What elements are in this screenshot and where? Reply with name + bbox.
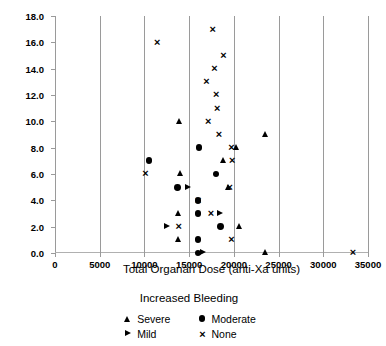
y-axis-tick-label: 12.0 <box>14 90 44 101</box>
mild-marker-icon <box>185 184 191 190</box>
x-axis-tick-mark <box>55 253 56 257</box>
moderate-marker-icon <box>146 157 153 164</box>
mild-marker-icon <box>164 223 170 229</box>
y-axis-tick-label: 14.0 <box>14 63 44 74</box>
y-axis-tick-label: 10.0 <box>14 116 44 127</box>
none-marker-icon <box>212 88 220 100</box>
x-axis-tick-mark <box>189 253 190 257</box>
legend-title: Increased Bleeding <box>0 292 378 304</box>
y-axis-line <box>55 16 56 253</box>
legend-item-label: Moderate <box>211 313 255 325</box>
y-axis-label-text: Patient Number <box>0 91 1 171</box>
gridline-vertical <box>323 16 324 253</box>
legend-item-label: None <box>211 328 236 340</box>
none-marker-icon <box>204 115 212 127</box>
mild-marker-icon <box>200 249 206 255</box>
none-marker-icon <box>210 62 218 74</box>
none-marker-icon <box>194 194 202 206</box>
moderate-marker-icon <box>195 210 202 217</box>
moderate-marker-icon <box>217 223 224 230</box>
moderate-marker-icon <box>174 184 181 191</box>
chart-area: Patient Number* 050001000015000200002500… <box>0 4 378 286</box>
none-marker-icon <box>227 141 235 153</box>
none-marker-icon <box>153 36 161 48</box>
y-axis-tick-label: 16.0 <box>14 37 44 48</box>
y-axis-tick-label: 4.0 <box>14 195 44 206</box>
x-axis-tick-mark <box>144 253 145 257</box>
severe-marker-icon <box>177 170 183 176</box>
none-marker-icon <box>225 181 233 193</box>
y-axis-tick-mark <box>51 16 55 17</box>
x-axis-tick-mark <box>100 253 101 257</box>
none-marker-icon <box>202 75 210 87</box>
gridline-vertical <box>100 16 101 253</box>
none-marker-icon <box>208 23 216 35</box>
y-axis-tick-label: 0.0 <box>14 248 44 259</box>
legend-items: SevereModerateMildNone <box>122 313 256 340</box>
none-marker-icon <box>228 154 236 166</box>
severe-marker-icon <box>176 118 182 124</box>
none-marker-icon <box>174 220 182 232</box>
none-marker-icon <box>214 128 222 140</box>
severe-marker-icon <box>262 131 268 137</box>
severe-marker-icon <box>220 157 226 163</box>
none-marker-icon <box>213 102 221 114</box>
y-axis-tick-mark <box>51 148 55 149</box>
severe-marker-icon <box>262 249 268 255</box>
y-axis-tick-label: 18.0 <box>14 11 44 22</box>
mild-marker-icon <box>122 328 134 339</box>
x-axis-tick-mark <box>279 253 280 257</box>
y-axis-tick-mark <box>51 42 55 43</box>
x-axis-label: Total Organan Dose (anti-Xa units) <box>55 263 368 275</box>
y-axis-tick-label: 2.0 <box>14 221 44 232</box>
legend-item-none[interactable]: None <box>196 328 255 340</box>
none-marker-icon <box>227 233 235 245</box>
severe-marker-icon <box>175 236 181 242</box>
plot-canvas: 050001000015000200002500030000350000.02.… <box>55 16 368 253</box>
x-axis-tick-mark <box>234 253 235 257</box>
y-axis-tick-label: 6.0 <box>14 169 44 180</box>
legend-item-label: Severe <box>137 313 170 325</box>
y-axis-tick-mark <box>51 253 55 254</box>
none-marker-icon <box>196 328 208 339</box>
gridline-vertical <box>368 16 369 253</box>
none-marker-icon <box>349 246 357 258</box>
none-marker-icon <box>206 207 214 219</box>
severe-marker-icon <box>122 313 134 324</box>
y-axis-tick-label: 8.0 <box>14 142 44 153</box>
y-axis-tick-mark <box>51 174 55 175</box>
legend-item-mild[interactable]: Mild <box>122 328 170 340</box>
legend-item-moderate[interactable]: Moderate <box>196 313 255 325</box>
y-axis-tick-mark <box>51 95 55 96</box>
x-axis-tick-mark <box>323 253 324 257</box>
x-axis-tick-mark <box>368 253 369 257</box>
moderate-marker-icon <box>196 313 208 324</box>
y-axis-tick-mark <box>51 200 55 201</box>
x-axis-line <box>55 252 368 253</box>
moderate-marker-icon <box>195 236 202 243</box>
gridline-vertical <box>189 16 190 253</box>
legend: Increased Bleeding SevereModerateMildNon… <box>0 292 378 340</box>
gridline-vertical <box>144 16 145 253</box>
moderate-marker-icon <box>213 171 220 178</box>
y-axis-tick-mark <box>51 227 55 228</box>
moderate-marker-icon <box>196 144 203 151</box>
gridline-vertical <box>234 16 235 253</box>
severe-marker-icon <box>236 223 242 229</box>
y-axis-label: Patient Number* <box>0 87 1 170</box>
gridline-vertical <box>279 16 280 253</box>
mild-marker-icon <box>217 210 223 216</box>
legend-item-severe[interactable]: Severe <box>122 313 170 325</box>
y-axis-tick-mark <box>51 121 55 122</box>
legend-item-label: Mild <box>137 328 156 340</box>
none-marker-icon <box>141 167 149 179</box>
none-marker-icon <box>219 49 227 61</box>
y-axis-tick-mark <box>51 69 55 70</box>
severe-marker-icon <box>175 210 181 216</box>
